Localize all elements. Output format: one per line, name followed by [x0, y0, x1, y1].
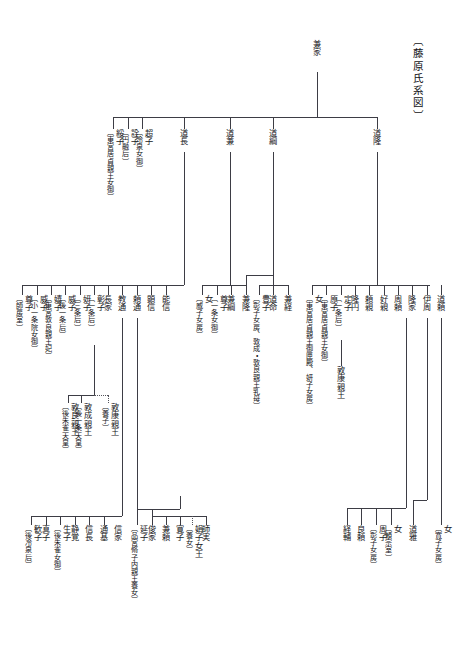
- page-title: 〔藤原氏系図〕: [410, 36, 425, 122]
- node-yorichika: 頼親: [363, 295, 372, 312]
- node-nobunaga: 信長: [83, 525, 92, 542]
- connector-michiyori-stem: [441, 318, 442, 525]
- connector-ym-drop-4: [192, 516, 193, 525]
- connector-michikane-stem: [230, 152, 231, 285]
- connector-shoshi-drop-2: [108, 395, 109, 403]
- connector-mt-bus-up: [246, 275, 247, 285]
- node-michikane: 道兼: [224, 129, 233, 146]
- connector-mtk-drop-8: [427, 285, 428, 295]
- connector-mtk-drop-0: [312, 285, 313, 295]
- node-toshiie: 俊家: [146, 525, 155, 542]
- node-domyo: 道命: [267, 295, 276, 312]
- connector-nr-drop-3: [75, 516, 76, 525]
- connector-korechika-bus: [413, 500, 427, 501]
- connector-ym-link: [152, 509, 153, 516]
- connector-michitsuna-bus: [202, 285, 246, 286]
- connector-g2-drop-1: [128, 117, 129, 129]
- connector-mn-drop-7: [122, 285, 123, 295]
- connector-mn-drop-10: [166, 285, 167, 295]
- connector-ym-drop-1: [152, 516, 153, 525]
- connector-mk-drop-2: [288, 285, 289, 295]
- connector-yorimichi-stem: [137, 318, 138, 509]
- connector-gen2-bus: [113, 117, 378, 118]
- connector-mn-drop-0: [22, 285, 23, 295]
- node-seishi-gosuzaku: 生子 〔後朱雀女御〕: [54, 525, 70, 575]
- connector-yorimichi-bus: [137, 509, 180, 510]
- connector-ym-drop-2: [166, 516, 167, 525]
- node-morozane: 師実: [200, 525, 209, 542]
- node-yoshinobu: 能信: [160, 295, 169, 312]
- connector-mn-drop-8: [137, 285, 138, 295]
- connector-shoshi-bus-adopted: [94, 395, 108, 396]
- genealogy-chart: 〔藤原氏系図〕 兼家 綏子 〔東宮居貞親王女御〕 詮子 〔円融后〕 超子 〔冷泉…: [0, 0, 454, 672]
- connector-root-stem: [317, 72, 318, 117]
- connector-kc-drop-0: [413, 500, 414, 525]
- node-ryuen: 隆円: [349, 295, 358, 312]
- node-michinaga: 道長: [178, 129, 187, 146]
- connector-mn-drop-3: [65, 285, 66, 295]
- connector-michitaka-stem: [377, 152, 378, 285]
- node-atsuyasu-teishi: 敦康親王: [335, 366, 344, 399]
- connector-michinaga-bus: [22, 285, 184, 286]
- node-michimasa: 道雅: [407, 525, 416, 542]
- node-choshi: 超子 〔冷泉女御〕: [136, 129, 152, 172]
- connector-mtk-drop-9: [441, 285, 442, 295]
- connector-takaie-stem: [406, 318, 407, 508]
- node-toyoko: 豊子 〔彰子女房、敦成・敦良親王乳母〕: [253, 295, 269, 409]
- connector-mtk-drop-2: [341, 285, 342, 295]
- node-tsunesuke: 経輔: [341, 525, 350, 542]
- connector-yorimichi-bus-up: [180, 496, 181, 509]
- connector-mn-drop-6: [108, 285, 109, 295]
- node-atsuhira-shinno: 敦成親王 〔後一条天皇〕: [75, 403, 91, 453]
- connector-teishi-stem: [341, 340, 342, 366]
- node-enshi: 延子 〔品宮脩子内親王養女〕: [131, 525, 147, 604]
- connector-norimichi-bus: [31, 516, 122, 517]
- connector-mt-drop-2: [231, 285, 232, 295]
- connector-shoshi-stem: [94, 345, 95, 395]
- node-korechika: 伊周: [421, 295, 430, 312]
- connector-ym-drop-5: [206, 516, 207, 525]
- node-musume-kanshi-nyobo: 女 〔寛子女房〕: [435, 525, 451, 568]
- connector-ym-drop-0: [137, 509, 138, 525]
- connector-mk-drop-1: [273, 285, 274, 295]
- connector-michinaga-stem: [184, 152, 185, 285]
- node-kanshi-goreizei: 歓子 〔後冷泉后〕: [25, 525, 41, 568]
- connector-yorimichi-bus2: [152, 516, 206, 517]
- connector-ym-drop-3: [180, 516, 181, 525]
- connector-mt-drop-0: [202, 285, 203, 295]
- connector-g2-drop-2: [142, 117, 143, 129]
- connector-mn-drop-2: [51, 285, 52, 295]
- node-norimichi: 教通: [116, 295, 125, 312]
- node-takaie: 隆家: [406, 295, 415, 312]
- connector-shoshi-drop-1: [81, 395, 82, 403]
- node-kaneyori: 兼頼: [160, 525, 169, 542]
- connector-mtk-drop-4: [369, 285, 370, 295]
- connector-mt-bus-link: [246, 275, 273, 276]
- node-kanetsune: 兼経: [282, 295, 291, 312]
- node-kanshi-yorimichi: 寛子: [174, 525, 183, 542]
- connector-mk-drop-0: [259, 285, 260, 295]
- node-root: 兼家: [311, 40, 320, 57]
- node-jokaku: 静覚: [69, 525, 78, 542]
- node-kanetaka: 兼隆: [240, 295, 249, 312]
- node-nobuie: 信家: [112, 525, 121, 542]
- connector-g2-drop-3: [184, 117, 185, 129]
- node-shinshi: 真子: [40, 525, 49, 542]
- connector-nr-drop-5: [104, 516, 105, 525]
- connector-mtk-drop-3: [355, 285, 356, 295]
- connector-shoshi-drop-0: [68, 395, 69, 403]
- node-michimoto: 通基: [98, 525, 107, 542]
- connector-g2-drop-6: [377, 117, 378, 129]
- connector-tk-drop-2: [376, 508, 377, 525]
- node-akinobu: 顕信: [145, 295, 154, 312]
- node-michitsuna: 道綱: [267, 129, 276, 146]
- connector-tk-drop-0: [347, 508, 348, 525]
- connector-nr-drop-4: [89, 516, 90, 525]
- node-michitaka: 道隆: [371, 129, 380, 146]
- connector-tk-drop-3: [391, 508, 392, 525]
- connector-mt-drop-3: [246, 285, 247, 295]
- connector-nr-drop-1: [46, 516, 47, 525]
- node-yorimichi: 頼通: [131, 295, 140, 312]
- connector-mn-drop-4: [80, 285, 81, 295]
- node-chikayori: 周頼: [392, 295, 401, 312]
